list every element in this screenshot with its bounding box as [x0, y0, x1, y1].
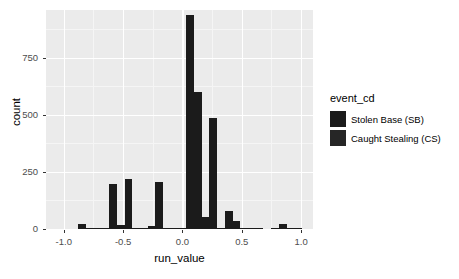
gridline-minor-horizontal — [46, 86, 313, 87]
legend-title: event_cd — [330, 92, 458, 104]
gridline-major-horizontal — [46, 58, 313, 59]
gridline-minor-horizontal — [46, 29, 313, 30]
histogram-bar — [155, 182, 163, 229]
histogram-bar — [240, 228, 248, 229]
gridline-major-vertical — [64, 10, 65, 229]
gridline-minor-horizontal — [46, 200, 313, 201]
histogram-bar — [125, 179, 133, 229]
x-tick-label: 0.5 — [220, 236, 264, 247]
legend-swatch-icon — [330, 130, 346, 146]
y-tick-label: 750 — [2, 52, 38, 63]
x-tick-mark — [301, 230, 302, 233]
legend-item[interactable]: Caught Stealing (CS) — [330, 130, 458, 146]
legend-key — [330, 130, 346, 146]
gridline-major-horizontal — [46, 115, 313, 116]
legend-item[interactable]: Stolen Base (SB) — [330, 111, 458, 127]
histogram-bar — [217, 228, 225, 229]
legend: event_cd Stolen Base (SB)Caught Stealing… — [330, 92, 458, 149]
x-tick-mark — [123, 230, 124, 233]
legend-item-label: Stolen Base (SB) — [351, 114, 424, 125]
x-tick-label: -1.0 — [42, 236, 86, 247]
y-tick-mark — [43, 172, 46, 173]
histogram-bar — [101, 228, 109, 229]
x-tick-mark — [242, 230, 243, 233]
gridline-major-horizontal — [46, 172, 313, 173]
gridline-major-vertical — [301, 10, 302, 229]
y-tick-label: 0 — [2, 223, 38, 234]
plot-panel — [46, 10, 313, 229]
histogram-bar — [194, 92, 202, 229]
histogram-bar — [202, 217, 210, 229]
y-tick-mark — [43, 115, 46, 116]
histogram-bar — [271, 228, 279, 229]
gridline-major-vertical — [182, 10, 183, 229]
x-axis-title: run_value — [46, 252, 313, 264]
y-tick-label: 250 — [2, 166, 38, 177]
gridline-minor-horizontal — [46, 143, 313, 144]
y-axis-title: count — [10, 82, 22, 142]
histogram-chart: 0250500750 count -1.0-0.50.00.51.0 run_v… — [0, 0, 459, 279]
histogram-bar — [225, 211, 233, 229]
histogram-bar — [94, 228, 102, 229]
legend-item-label: Caught Stealing (CS) — [351, 133, 441, 144]
histogram-bar — [179, 228, 187, 229]
histogram-bar — [248, 228, 256, 229]
histogram-bar — [279, 224, 287, 229]
legend-swatch-icon — [330, 111, 346, 127]
gridline-minor-vertical — [271, 10, 272, 229]
legend-key — [330, 111, 346, 127]
histogram-bar — [148, 226, 156, 229]
histogram-bar — [109, 184, 117, 229]
histogram-bar — [294, 228, 302, 229]
y-tick-mark — [43, 229, 46, 230]
histogram-bar — [233, 221, 241, 229]
histogram-bar — [163, 228, 171, 229]
gridline-major-vertical — [242, 10, 243, 229]
histogram-bar — [132, 228, 140, 229]
x-tick-mark — [64, 230, 65, 233]
histogram-bar — [140, 228, 148, 229]
y-tick-mark — [43, 58, 46, 59]
x-tick-label: 0.0 — [160, 236, 204, 247]
x-tick-label: -0.5 — [101, 236, 145, 247]
histogram-bar — [209, 118, 217, 229]
histogram-bar — [117, 225, 125, 229]
histogram-bar — [287, 228, 295, 229]
histogram-bar — [256, 228, 264, 229]
histogram-bar — [78, 224, 86, 229]
histogram-bar — [186, 15, 194, 229]
legend-items: Stolen Base (SB)Caught Stealing (CS) — [330, 111, 458, 146]
histogram-bar — [86, 228, 94, 229]
x-tick-label: 1.0 — [279, 236, 323, 247]
x-tick-mark — [182, 230, 183, 233]
gridline-minor-vertical — [93, 10, 94, 229]
gridline-minor-vertical — [153, 10, 154, 229]
histogram-bar — [171, 228, 179, 229]
